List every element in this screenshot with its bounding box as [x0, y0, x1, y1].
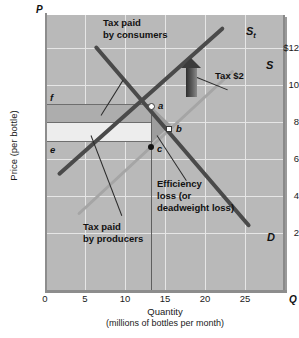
x-tick-label-15: 15: [151, 294, 179, 304]
y-tick-label-6: 6: [257, 154, 299, 164]
gridline-vertical-15: [165, 15, 166, 290]
y-tick-label-10: 10: [257, 80, 299, 90]
gridline-horizontal-6: [45, 159, 283, 160]
x-axis-symbol: Q: [289, 294, 297, 305]
gridline-vertical-25: [245, 15, 246, 290]
x-axis-subtitle: (millions of bottles per month): [45, 318, 285, 330]
quantity-dropline: [151, 106, 152, 290]
gridline-horizontal-10: [45, 85, 283, 86]
curve-label-st-subscript: t: [253, 31, 256, 40]
x-tick-label-25: 25: [231, 294, 259, 304]
y-tick-label-2: 2: [257, 228, 299, 238]
point-label-c: c: [157, 143, 162, 154]
tax-shift-arrow-shaft: [186, 68, 197, 97]
chart-figure: St S D a b c f e Tax paid by consumers T…: [0, 0, 299, 338]
annotation-tax-paid-by-consumers: Tax paid by consumers: [103, 17, 203, 41]
y-tick-label-8: 8: [257, 117, 299, 127]
gridline-vertical-20: [205, 15, 206, 290]
x-tick-label-5: 5: [71, 294, 99, 304]
data-point-c: [148, 144, 154, 150]
y-tick-label-12: $12: [257, 43, 299, 53]
x-tick-label-0: 0: [31, 294, 59, 304]
y-axis-symbol: P: [36, 4, 43, 15]
point-label-b: b: [176, 123, 182, 134]
tax-shift-arrow-head: [181, 58, 201, 68]
y-axis-line: [45, 13, 47, 292]
x-axis-title-group: Quantity (millions of bottles per month): [45, 306, 285, 329]
x-tick-label-10: 10: [111, 294, 139, 304]
plot-area: St S D a b c f e Tax paid by consumers T…: [45, 15, 285, 290]
price-level-label-f: f: [50, 92, 53, 103]
y-axis-title: Price (per bottle): [8, 81, 19, 211]
y-tick-label-4: 4: [257, 191, 299, 201]
annotation-efficiency-loss: Efficiency loss (or deadweight loss): [157, 178, 267, 214]
point-label-a: a: [158, 100, 163, 111]
gridline-horizontal-12: [45, 48, 283, 49]
price-level-label-e: e: [50, 144, 55, 155]
data-point-a: [148, 103, 155, 110]
annotation-tax-paid-by-producers: Tax paid by producers: [83, 221, 183, 245]
gridline-vertical-10: [125, 15, 126, 290]
x-tick-label-20: 20: [191, 294, 219, 304]
curve-label-supply-after-tax: St: [246, 25, 256, 40]
x-axis-title: Quantity: [45, 306, 285, 318]
price-line-8: [45, 122, 153, 123]
